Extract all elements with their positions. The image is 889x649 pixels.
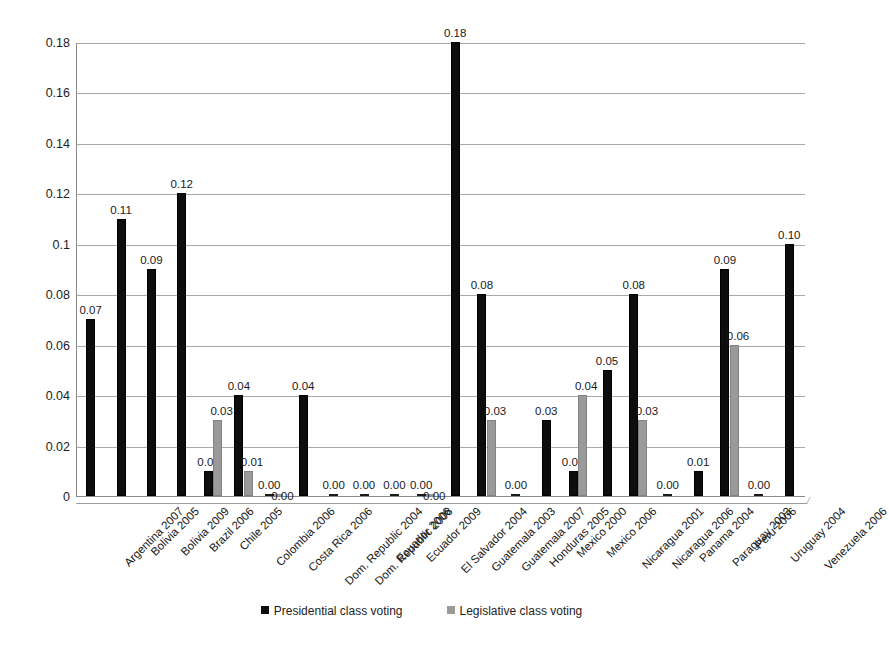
y-axis-tick-label: 0.18 [4,36,70,50]
bar-group: 0.04 [290,43,320,496]
legend-entry: Legislative class voting [447,604,583,618]
bar-value-label: 0.04 [228,380,250,392]
bar-group: 0.00 [745,43,775,496]
bar-presidential [663,494,672,496]
bar-group: 0.010.04 [563,43,593,496]
bar-value-label: 0.00 [322,479,344,491]
bar-legislative [730,345,739,496]
legend-entry: Presidential class voting [261,604,403,618]
y-axis-tick-label: 0.04 [4,389,70,403]
y-axis-tick-label: 0.02 [4,440,70,454]
bar-value-label: 0.07 [79,304,101,316]
bar-presidential [204,471,213,496]
x-axis-tick-label: Peru 2006 [753,505,799,551]
plot-area: 0.070.110.090.120.010.030.040.010.000.00… [76,43,805,497]
bar-group: 0.040.01 [229,43,259,496]
bar-presidential [234,395,243,496]
bar-value-label: 0.09 [140,254,162,266]
bar-group: 0.010.03 [199,43,229,496]
bar-value-label: 0.12 [171,178,193,190]
legend-label: Presidential class voting [274,604,403,618]
y-axis-tick-label: 0.14 [4,137,70,151]
bar-group: 0.11 [107,43,137,496]
bar-presidential [603,370,612,496]
bar-presidential [147,269,156,496]
bar-group: 0.00 [320,43,350,496]
legend-swatch-icon [261,606,269,614]
bar-legislative [244,471,253,496]
bar-presidential [542,420,551,496]
bar-value-label: 0.00 [748,479,770,491]
bar-group: 0.000.00 [259,43,289,496]
bar-presidential [451,42,460,496]
bar-presidential [117,219,126,496]
bar-group: 0.10 [776,43,806,496]
x-axis: Argentina 2007Bolivia 2005Bolivia 2009Br… [0,497,843,607]
bar-presidential [629,294,638,496]
bar-group: 0.05 [593,43,623,496]
bar-presidential [360,494,369,496]
bar-presidential [694,471,703,496]
bar-presidential [569,471,578,496]
bar-value-label: 0.18 [444,27,466,39]
y-axis: 00.020.040.060.080.10.120.140.160.18 [0,43,70,497]
bar-group: 0.090.06 [715,43,745,496]
bar-value-label: 0.00 [353,479,375,491]
bar-presidential [177,193,186,496]
bar-value-label: 0.11 [110,204,132,216]
chart-legend: Presidential class votingLegislative cla… [0,604,843,618]
legend-swatch-icon [447,606,455,614]
y-axis-tick-label: 0.08 [4,288,70,302]
y-axis-tick-label: 0.16 [4,86,70,100]
bar-presidential [299,395,308,496]
bar-value-label: 0.00 [505,479,527,491]
bar-group: 0.080.03 [624,43,654,496]
y-axis-tick-label: 0.06 [4,339,70,353]
bar-value-label: 0.04 [292,380,314,392]
bar-group: 0.09 [138,43,168,496]
bar-group: 0.00 [654,43,684,496]
bar-value-label: 0.05 [596,355,618,367]
y-axis-tick-label: 0.1 [4,238,70,252]
legend-label: Legislative class voting [460,604,583,618]
bar-group: 0.00 [502,43,532,496]
bar-group: 0.03 [533,43,563,496]
bar-legislative [213,420,222,496]
bar-group: 0.080.03 [472,43,502,496]
bar-value-label: 0.08 [471,279,493,291]
bar-presidential [511,494,520,496]
bar-presidential [720,269,729,496]
bar-legislative [578,395,587,496]
y-axis-tick-label: 0.12 [4,187,70,201]
bar-value-label: 0.08 [623,279,645,291]
bar-group: 0.18 [442,43,472,496]
bar-value-label: 0.10 [778,229,800,241]
bar-presidential [754,494,763,496]
bar-value-label: 0.00 [657,479,679,491]
bar-value-label: 0.01 [687,456,709,468]
bar-group: 0.07 [77,43,107,496]
bar-group: 0.12 [168,43,198,496]
bar-presidential [785,244,794,496]
bar-presidential [329,494,338,496]
bar-group: 0.00 [350,43,380,496]
bar-presidential [390,494,399,496]
bar-value-label: 0.09 [714,254,736,266]
bar-group: 0.000.00 [411,43,441,496]
bar-group: 0.01 [685,43,715,496]
bar-value-label: 0.00 [383,479,405,491]
bar-group: 0.00 [381,43,411,496]
bar-presidential [86,319,95,496]
bar-presidential [477,294,486,496]
bar-legislative [487,420,496,496]
bar-legislative [638,420,647,496]
bar-value-label: 0.03 [535,405,557,417]
